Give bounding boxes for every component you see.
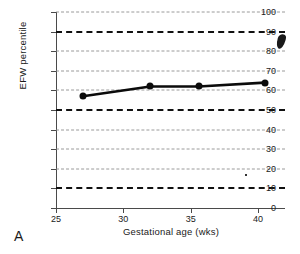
- x-tick-label-40: 40: [243, 214, 273, 224]
- data-point-0: [79, 93, 86, 100]
- data-series-line: [56, 12, 285, 209]
- x-tick-label-25: 25: [41, 214, 71, 224]
- y-axis-title: EFW percentile: [17, 0, 28, 126]
- speck-artifact: [245, 174, 247, 176]
- x-axis-title: Gestational age (wks): [55, 226, 287, 237]
- data-point-2: [195, 83, 202, 90]
- x-tick-label-35: 35: [176, 214, 206, 224]
- plot-area: 0102030405060708090100 25303540: [56, 12, 285, 208]
- figure-panel-a: EFW percentile Gestational age (wks) A 0…: [0, 0, 300, 254]
- panel-label: A: [14, 228, 23, 244]
- x-tick-label-30: 30: [108, 214, 138, 224]
- data-point-1: [147, 83, 154, 90]
- data-point-3: [261, 79, 268, 86]
